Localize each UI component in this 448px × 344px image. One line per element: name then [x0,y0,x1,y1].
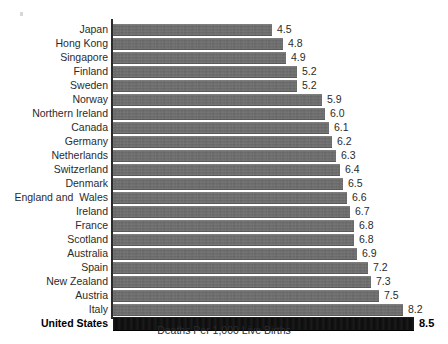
bar [113,220,354,232]
bar-row: Sweden5.2 [0,79,448,93]
bar-row: New Zealand7.3 [0,275,448,289]
value-label: 4.5 [277,23,292,37]
category-label: Australia [67,247,108,261]
value-label: 4.8 [288,37,303,51]
category-label: Ireland [76,205,108,219]
value-label: 5.2 [302,65,317,79]
bar [113,94,322,106]
value-label: 6.5 [348,177,363,191]
bar-fill [113,262,368,274]
bar-fill [113,164,340,176]
bar [113,108,325,120]
bar-row: Finland5.2 [0,65,448,79]
bar-fill [113,136,332,148]
bar-row: Hong Kong4.8 [0,37,448,51]
bar-fill [113,206,350,218]
bar [113,276,371,288]
bar [113,136,332,148]
bar-fill [113,24,272,36]
bar [113,290,379,302]
bar-fill [113,122,329,134]
bar-fill [113,52,286,64]
bar-row: Norway5.9 [0,93,448,107]
category-label: Germany [65,135,108,149]
bar-row: Italy8.2 [0,303,448,317]
bar-row: Ireland6.7 [0,205,448,219]
bar-row: Switzerland6.4 [0,163,448,177]
value-label: 6.8 [359,233,374,247]
category-label: Italy [89,303,108,317]
bar-fill [113,248,357,260]
x-axis-caption: Deaths Per 1,000 Live Births [0,324,448,336]
bar-fill [113,80,297,92]
bar [113,234,354,246]
bar-fill [113,290,379,302]
bar-row: Japan4.5 [0,23,448,37]
bar [113,178,343,190]
bar-row: Austria7.5 [0,289,448,303]
bar [113,66,297,78]
bar-fill [113,94,322,106]
bar [113,304,403,316]
bar-fill [113,66,297,78]
bar-row: Australia6.9 [0,247,448,261]
category-label: New Zealand [46,275,108,289]
category-label: Spain [81,261,108,275]
bar [113,206,350,218]
category-label: Switzerland [54,163,108,177]
bar [113,164,340,176]
bar-fill [113,38,283,50]
bar-row: Denmark6.5 [0,177,448,191]
bar [113,150,336,162]
category-label: Sweden [70,79,108,93]
plot-area: Japan4.5Hong Kong4.8Singapore4.9Finland5… [0,0,448,344]
category-label: Norway [72,93,108,107]
bar-row: Canada6.1 [0,121,448,135]
bar-row: Scotland6.8 [0,233,448,247]
bar [113,80,297,92]
bar-row: Germany6.2 [0,135,448,149]
value-label: 8.2 [408,303,423,317]
bar-fill [113,220,354,232]
bar [113,122,329,134]
category-label: Singapore [60,51,108,65]
bar-fill [113,234,354,246]
category-label: Finland [74,65,108,79]
category-label: Hong Kong [55,37,108,51]
value-label: 6.3 [341,149,356,163]
bar-row: France6.8 [0,219,448,233]
value-label: 6.1 [334,121,349,135]
bar-fill [113,150,336,162]
bar-rows: Japan4.5Hong Kong4.8Singapore4.9Finland5… [0,23,448,331]
bar-row: Singapore4.9 [0,51,448,65]
value-label: 6.6 [352,191,367,205]
value-label: 5.9 [327,93,342,107]
bar-row: Spain7.2 [0,261,448,275]
value-label: 7.3 [376,275,391,289]
value-label: 6.7 [355,205,370,219]
value-label: 7.5 [384,289,399,303]
value-label: 4.9 [291,51,306,65]
category-label: Japan [79,23,108,37]
bar [113,24,272,36]
bar [113,38,283,50]
category-label: Northern Ireland [32,107,108,121]
category-label: Netherlands [51,149,108,163]
bar-fill [113,108,325,120]
bar-fill [113,276,371,288]
bar-row: England and Wales6.6 [0,191,448,205]
value-label: 7.2 [373,261,388,275]
bar-row: Northern Ireland6.0 [0,107,448,121]
bar [113,52,286,64]
bar [113,192,347,204]
bar-fill [113,178,343,190]
bar-row: Netherlands6.3 [0,149,448,163]
value-label: 6.9 [362,247,377,261]
category-label: Austria [75,289,108,303]
category-label: Canada [71,121,108,135]
category-label: France [75,219,108,233]
value-label: 6.8 [359,219,374,233]
category-label: Scotland [67,233,108,247]
category-label: Denmark [65,177,108,191]
category-label: England and Wales [14,191,108,205]
